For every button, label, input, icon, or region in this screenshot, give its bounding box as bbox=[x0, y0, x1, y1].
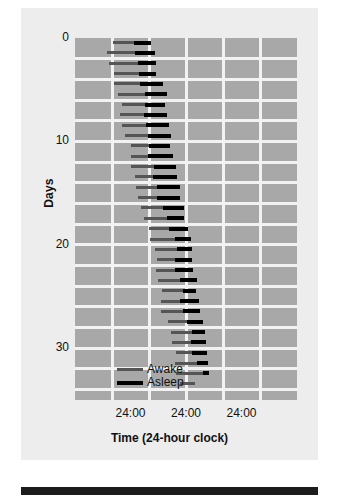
day-row bbox=[75, 338, 297, 348]
awake-segment bbox=[155, 248, 177, 251]
asleep-segment bbox=[167, 216, 184, 220]
day-row bbox=[75, 379, 297, 389]
awake-segment bbox=[171, 331, 192, 334]
asleep-segment bbox=[187, 320, 202, 324]
day-row bbox=[75, 152, 297, 162]
awake-segment bbox=[144, 217, 167, 220]
day-row bbox=[75, 214, 297, 224]
asleep-segment bbox=[192, 351, 206, 355]
asleep-segment bbox=[157, 185, 180, 189]
awake-segment bbox=[114, 82, 139, 85]
day-row bbox=[75, 266, 297, 276]
actogram-plot-area bbox=[75, 38, 297, 400]
day-row bbox=[75, 90, 297, 100]
legend-label-asleep: Asleep bbox=[147, 376, 184, 389]
day-row bbox=[75, 235, 297, 245]
day-row bbox=[75, 121, 297, 131]
day-row bbox=[75, 100, 297, 110]
x-axis-tick-label: 24:00 bbox=[212, 406, 272, 420]
day-row bbox=[75, 255, 297, 265]
asleep-segment bbox=[175, 237, 191, 241]
asleep-segment bbox=[177, 247, 192, 251]
day-row bbox=[75, 328, 297, 338]
legend-swatch-awake-icon bbox=[117, 368, 143, 371]
awake-segment bbox=[156, 269, 175, 272]
asleep-segment bbox=[157, 196, 181, 200]
legend-swatch-asleep-icon bbox=[117, 381, 143, 385]
awake-segment bbox=[161, 300, 180, 303]
asleep-segment bbox=[135, 51, 156, 55]
x-axis-tick-label: 24:00 bbox=[156, 406, 216, 420]
y-axis-tick-label: 20 bbox=[25, 237, 69, 251]
bottom-black-bar bbox=[21, 487, 318, 495]
awake-segment bbox=[109, 62, 139, 65]
asleep-segment bbox=[183, 309, 200, 313]
awake-segment bbox=[157, 258, 176, 261]
asleep-segment bbox=[192, 330, 205, 334]
asleep-segment bbox=[203, 371, 209, 375]
asleep-segment bbox=[183, 289, 196, 293]
awake-segment bbox=[135, 175, 154, 178]
awake-segment bbox=[131, 165, 154, 168]
awake-segment bbox=[150, 238, 175, 241]
day-row bbox=[75, 69, 297, 79]
legend: Awake Asleep bbox=[117, 363, 184, 389]
day-row bbox=[75, 183, 297, 193]
day-row bbox=[75, 359, 297, 369]
x-axis-tick-label: 24:00 bbox=[101, 406, 161, 420]
y-axis-tick-label: 0 bbox=[25, 30, 69, 44]
day-row bbox=[75, 203, 297, 213]
awake-segment bbox=[172, 341, 191, 344]
asleep-segment bbox=[134, 41, 151, 45]
asleep-segment bbox=[140, 82, 163, 86]
awake-segment bbox=[122, 103, 145, 106]
asleep-segment bbox=[145, 92, 166, 96]
asleep-segment bbox=[197, 361, 208, 365]
asleep-segment bbox=[191, 340, 206, 344]
asleep-segment bbox=[148, 154, 173, 158]
awake-segment bbox=[161, 310, 183, 313]
awake-segment bbox=[162, 289, 183, 292]
awake-segment bbox=[122, 124, 146, 127]
day-row bbox=[75, 110, 297, 120]
awake-segment bbox=[120, 113, 144, 116]
asleep-segment bbox=[144, 113, 167, 117]
asleep-segment bbox=[163, 206, 184, 210]
asleep-segment bbox=[180, 299, 199, 303]
asleep-segment bbox=[153, 175, 177, 179]
y-axis-tick-label: 30 bbox=[25, 340, 69, 354]
day-row bbox=[75, 286, 297, 296]
asleep-segment bbox=[145, 103, 165, 107]
awake-segment bbox=[158, 279, 180, 282]
asleep-segment bbox=[169, 227, 188, 231]
asleep-segment bbox=[180, 278, 197, 282]
awake-segment bbox=[149, 227, 168, 230]
day-row bbox=[75, 38, 297, 48]
day-row bbox=[75, 79, 297, 89]
awake-segment bbox=[107, 51, 134, 54]
x-axis-title: Time (24-hour clock) bbox=[21, 431, 318, 445]
awake-segment bbox=[136, 186, 157, 189]
day-row bbox=[75, 193, 297, 203]
day-row bbox=[75, 141, 297, 151]
day-row bbox=[75, 59, 297, 69]
day-row bbox=[75, 245, 297, 255]
day-row bbox=[75, 317, 297, 327]
day-row bbox=[75, 172, 297, 182]
awake-segment bbox=[131, 144, 149, 147]
awake-segment bbox=[176, 351, 193, 354]
day-row bbox=[75, 162, 297, 172]
awake-segment bbox=[138, 196, 157, 199]
day-row bbox=[75, 348, 297, 358]
day-row bbox=[75, 307, 297, 317]
awake-segment bbox=[131, 155, 148, 158]
asleep-segment bbox=[139, 72, 156, 76]
y-axis-title: Days bbox=[42, 163, 56, 223]
day-row bbox=[75, 48, 297, 58]
asleep-segment bbox=[154, 165, 176, 169]
day-row bbox=[75, 369, 297, 379]
asleep-segment bbox=[148, 134, 171, 138]
asleep-segment bbox=[149, 144, 170, 148]
day-row bbox=[75, 131, 297, 141]
asleep-segment bbox=[146, 123, 169, 127]
